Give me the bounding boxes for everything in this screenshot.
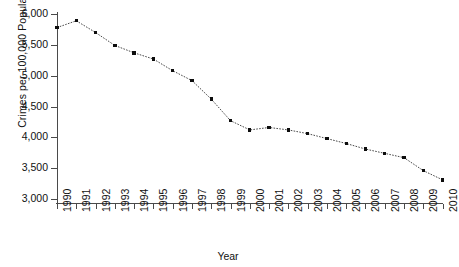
data-point	[383, 152, 386, 155]
data-point	[345, 142, 348, 145]
data-point	[441, 178, 444, 181]
data-point	[267, 126, 270, 129]
data-point	[422, 169, 425, 172]
data-point	[94, 31, 97, 34]
data-point	[132, 51, 135, 54]
data-point	[171, 69, 174, 72]
data-point	[248, 128, 251, 131]
data-point	[287, 128, 290, 131]
data-point	[325, 137, 328, 140]
data-point	[75, 19, 78, 22]
data-point	[402, 156, 405, 159]
data-point	[210, 97, 213, 100]
data-point	[55, 26, 58, 29]
data-point	[306, 132, 309, 135]
data-point	[190, 79, 193, 82]
data-point	[113, 44, 116, 47]
data-point	[364, 147, 367, 150]
data-point	[152, 57, 155, 60]
data-point	[229, 119, 232, 122]
